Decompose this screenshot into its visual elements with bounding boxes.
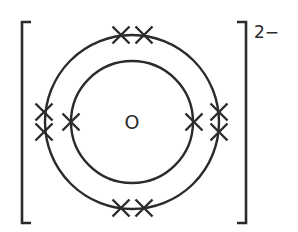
charge-label: 2− [254, 22, 279, 42]
right-bracket [237, 22, 246, 223]
nucleus-label: O [125, 111, 140, 133]
oxide-ion-diagram: O 2− [0, 0, 298, 232]
electron-cross-icon [186, 114, 203, 131]
left-bracket [22, 22, 31, 223]
